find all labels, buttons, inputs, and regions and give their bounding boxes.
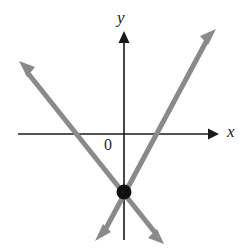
x-axis-label: x (227, 123, 235, 140)
arrowhead-upper-left-icon (19, 61, 35, 77)
graph-figure: y x 0 (0, 0, 250, 248)
line-positive-slope (104, 40, 207, 232)
y-axis-label: y (117, 9, 125, 26)
x-axis-arrowhead-icon (208, 129, 219, 140)
arrowhead-lower-right-icon (148, 229, 164, 244)
y-axis-arrowhead-icon (119, 31, 130, 43)
graph-lines-group (19, 29, 216, 244)
origin-label: 0 (104, 137, 112, 153)
vertex-point-marker (117, 185, 132, 200)
arrowhead-upper-right-icon (200, 29, 216, 45)
coordinate-plane-canvas (0, 0, 250, 248)
line-negative-slope (27, 72, 157, 235)
